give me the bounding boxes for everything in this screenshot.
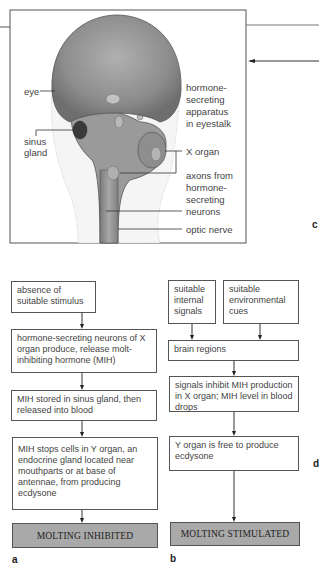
label-axons-line1: axons from [186,170,233,181]
label-sinus-gland-line1: sinus [24,136,46,147]
flow-b-step-y-organ-free: Y organ is free to produce ecdysone [169,436,299,471]
label-apparatus-line1: hormone- [186,82,227,93]
flow-a-step-1: absence of suitable stimulus [11,281,96,313]
label-x-organ: X organ [186,146,219,157]
label-apparatus-line4: in eyestalk [186,118,231,129]
label-axons-line4: neurons [186,206,220,217]
label-optic-nerve: optic nerve [186,224,232,235]
label-apparatus-line2: secreting [186,94,225,105]
label-sinus-gland-line2: gland [24,147,47,158]
flow-b-step-signals-inhibit: signals inhibit MIH production in X orga… [169,376,299,412]
flow-b-outcome-molting-stimulated: MOLTING STIMULATED [170,522,300,546]
panel-letter-a: a [12,554,18,565]
flow-a-step-4: MIH stops cells in Y organ, an endocrine… [12,437,158,510]
flow-a-step-3: MIH stored in sinus gland, then released… [11,390,157,421]
label-eye: eye [24,86,39,97]
panel-letter-b: b [170,553,176,564]
panel-letter-d: d [313,458,319,469]
flow-b-step-brain-regions: brain regions [168,340,299,361]
label-axons-line3: secreting [186,194,225,205]
flow-a-outcome-molting-inhibited: MOLTING INHIBITED [12,523,158,548]
flow-a-step-2: hormone-secreting neurons of X organ pro… [11,329,157,373]
label-apparatus-line3: apparatus [186,106,228,117]
panel-letter-c: c [312,219,318,230]
flow-b-input-environmental-cues: suitable environmental cues [223,280,299,324]
label-axons-line2: hormone- [186,182,227,193]
flow-b-input-internal-signals: suitable internal signals [168,280,216,324]
